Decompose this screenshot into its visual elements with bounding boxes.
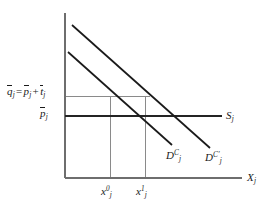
pbar-axis-label: pj bbox=[40, 108, 48, 121]
demand-curve-shifted-label: DC′j bbox=[205, 152, 222, 165]
x0-axis-label: x0j bbox=[101, 186, 112, 199]
q-overbar bbox=[7, 85, 12, 86]
x0-subscript: j bbox=[110, 190, 112, 199]
p-overbar-inline bbox=[24, 85, 29, 86]
t-overbar bbox=[40, 85, 43, 86]
demand-curve-original-label: DCj bbox=[166, 150, 181, 163]
supply-curve-label: Sj bbox=[226, 110, 234, 123]
sj-subscript: j bbox=[232, 114, 234, 123]
x1-axis-label: x1j bbox=[136, 186, 147, 199]
supply-demand-figure: qj=pj+tj pj x0j x1j DCj DC′j Sj Xj bbox=[0, 0, 278, 211]
tbar-symbol: t bbox=[40, 86, 43, 97]
demand-curve-original-line bbox=[68, 52, 172, 145]
dcprime-subscript: j bbox=[220, 156, 222, 165]
xj-symbol: X bbox=[247, 171, 254, 183]
x1-subscript: j bbox=[145, 190, 147, 199]
qbar-symbol: q bbox=[7, 86, 13, 97]
plus-sign: + bbox=[31, 85, 40, 97]
dcprime-symbol: D bbox=[205, 151, 213, 163]
figure-canvas bbox=[0, 0, 278, 211]
p-overbar bbox=[40, 107, 45, 108]
dc-symbol: D bbox=[166, 149, 174, 161]
pbar-symbol: p bbox=[40, 108, 46, 119]
dc-subscript: j bbox=[179, 154, 181, 163]
qbar-axis-label: qj=pj+tj bbox=[7, 86, 45, 99]
dcprime-superscript: C′ bbox=[213, 151, 220, 159]
sj-symbol: S bbox=[226, 109, 232, 121]
equals-sign: = bbox=[15, 85, 24, 97]
xj-subscript: j bbox=[254, 176, 256, 185]
pbar-symbol-inline: p bbox=[24, 86, 30, 97]
demand-curve-shifted-line bbox=[72, 25, 210, 148]
tbar-subscript: j bbox=[43, 90, 45, 99]
x-axis-label: Xj bbox=[247, 172, 256, 185]
